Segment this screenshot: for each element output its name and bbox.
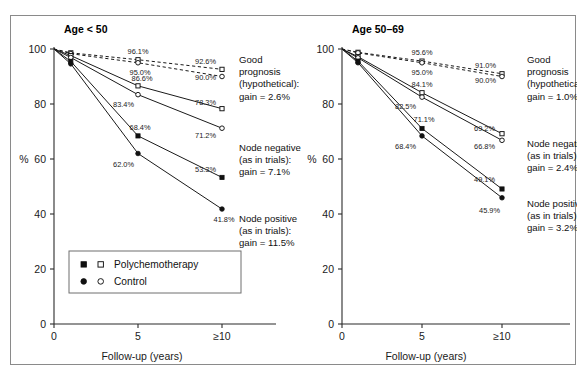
data-point-marker: [69, 62, 74, 67]
data-point-label: 90.0%: [195, 73, 216, 82]
annotation-node-positive: gain = 3.2%: [527, 222, 577, 233]
annotation-node-positive: (as in trials):: [239, 225, 291, 236]
y-tick-label: 80: [34, 98, 46, 110]
annotation-good-prognosis: gain = 2.6%: [239, 91, 290, 102]
data-point-label: 68.4%: [130, 123, 151, 132]
data-point-marker: [420, 134, 425, 139]
data-point-marker: [220, 107, 224, 111]
annotation-node-negative: (as in trials):: [527, 150, 577, 161]
y-tick-label: 0: [40, 318, 46, 330]
data-point-label: 92.6%: [195, 57, 216, 66]
panel-age-under-50: Age < 50020406080100%05≥10Follow-up (yea…: [19, 23, 301, 362]
annotation-node-positive: gain = 11.5%: [239, 237, 295, 248]
data-point-label: 86.6%: [132, 74, 153, 83]
data-point-label: 91.0%: [475, 61, 496, 70]
annotation-good-prognosis: Good: [239, 54, 262, 65]
y-tick-label: 100: [316, 43, 334, 55]
data-point-label: 66.8%: [474, 142, 495, 151]
data-point-marker: [500, 187, 504, 191]
y-tick-label: 20: [322, 263, 334, 275]
annotation-good-prognosis: gain = 1.0%: [527, 91, 577, 102]
legend-label: Control: [114, 276, 147, 287]
data-point-label: 95.6%: [412, 48, 433, 57]
data-point-marker: [420, 95, 425, 100]
x-tick-label: 0: [339, 330, 345, 342]
y-tick-label: 80: [322, 98, 334, 110]
annotation-good-prognosis: Good: [527, 54, 550, 65]
x-tick-label: 5: [135, 330, 141, 342]
annotation-node-negative: (as in trials):: [239, 154, 291, 165]
data-point-label: 62.0%: [113, 160, 134, 169]
data-point-marker: [136, 92, 141, 97]
data-point-label: 78.3%: [195, 98, 216, 107]
panel-age-50-69: Age 50–69020406080100%05≥10Follow-up (ye…: [307, 23, 577, 362]
data-point-marker: [500, 132, 504, 136]
annotation-good-prognosis: prognosis: [239, 66, 281, 77]
annotation-node-positive: Node positive: [239, 213, 297, 224]
data-point-label: 68.4%: [395, 142, 416, 151]
x-tick-label: ≥10: [213, 330, 231, 342]
data-point-label: 53.3%: [195, 165, 216, 174]
data-point-label: 71.2%: [195, 131, 216, 140]
data-point-label: 95.0%: [412, 68, 433, 77]
annotation-good-prognosis: (hypothetical):: [239, 78, 299, 89]
data-point-label: 45.9%: [479, 206, 500, 215]
y-tick-label: 40: [322, 208, 334, 220]
data-point-marker: [220, 207, 225, 212]
legend-box: [69, 251, 241, 293]
data-point-marker: [220, 126, 225, 131]
data-point-marker: [136, 134, 140, 138]
data-point-marker: [420, 126, 424, 130]
data-point-label: 71.1%: [414, 115, 435, 124]
annotation-good-prognosis: prognosis: [527, 66, 569, 77]
data-point-label: 96.1%: [128, 47, 149, 56]
data-point-label: 83.4%: [113, 100, 134, 109]
legend-label: Polychemotherapy: [114, 259, 199, 270]
y-tick-label: 60: [34, 153, 46, 165]
data-point-marker: [220, 67, 224, 71]
annotation-node-positive: Node positive: [527, 198, 577, 209]
data-point-marker: [136, 151, 141, 156]
x-tick-label: ≥10: [493, 330, 511, 342]
y-tick-label: 60: [322, 153, 334, 165]
data-point-marker: [220, 74, 225, 79]
data-point-label: 49.1%: [474, 175, 495, 184]
annotation-good-prognosis: (hypothetical):: [527, 78, 577, 89]
data-point-marker: [356, 60, 361, 65]
annotation-node-negative: Node negative: [527, 138, 577, 149]
panel-title: Age 50–69: [352, 23, 404, 35]
legend-open-square-marker: [98, 262, 103, 267]
data-point-marker: [136, 84, 140, 88]
y-tick-label: 40: [34, 208, 46, 220]
data-point-marker: [220, 175, 224, 179]
annotation-node-positive: (as in trials):: [527, 210, 577, 221]
x-tick-label: 0: [51, 330, 57, 342]
figure-frame: Age < 50020406080100%05≥10Follow-up (yea…: [10, 15, 576, 365]
data-point-label: 41.8%: [214, 215, 235, 224]
data-point-marker: [420, 60, 425, 65]
chart-canvas: Age < 50020406080100%05≥10Follow-up (yea…: [11, 16, 577, 366]
data-point-label: 90.0%: [475, 76, 496, 85]
legend-filled-square-marker: [81, 262, 86, 267]
data-point-marker: [500, 195, 505, 200]
x-axis-title: Follow-up (years): [101, 350, 182, 362]
y-axis-title: %: [307, 153, 316, 165]
x-axis-title: Follow-up (years): [385, 350, 466, 362]
annotation-node-negative: gain = 2.4%: [527, 162, 577, 173]
annotation-node-negative: gain = 7.1%: [239, 166, 290, 177]
data-point-label: 84.1%: [412, 80, 433, 89]
y-tick-label: 100: [28, 43, 46, 55]
y-tick-label: 20: [34, 263, 46, 275]
legend-filled-circle-marker: [81, 279, 87, 285]
data-point-marker: [136, 60, 141, 65]
y-tick-label: 0: [328, 318, 334, 330]
y-axis-title: %: [19, 153, 28, 165]
annotation-node-negative: Node negative: [239, 142, 301, 153]
legend-open-circle-marker: [98, 279, 104, 285]
x-tick-label: 5: [419, 330, 425, 342]
data-point-marker: [500, 138, 505, 143]
panel-title: Age < 50: [64, 23, 108, 35]
figure-root: Age < 50020406080100%05≥10Follow-up (yea…: [0, 0, 587, 378]
data-point-marker: [500, 74, 505, 79]
data-point-marker: [420, 91, 424, 95]
